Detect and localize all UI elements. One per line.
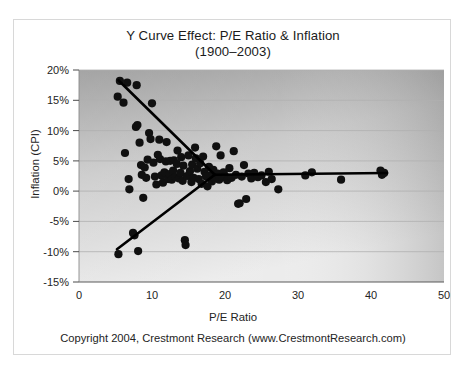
ytick-label: 10% bbox=[47, 125, 69, 137]
scatter-point bbox=[119, 99, 127, 107]
scatter-point bbox=[240, 161, 248, 169]
scatter-point bbox=[155, 136, 163, 144]
ytick-label: 20% bbox=[47, 64, 69, 76]
scatter-point bbox=[125, 175, 133, 183]
ytick-label: 0% bbox=[53, 185, 69, 197]
ytick-label: -10% bbox=[43, 246, 69, 258]
xtick-label: 0 bbox=[76, 289, 82, 301]
scatter-point bbox=[125, 185, 133, 193]
xtick-label: 20 bbox=[219, 289, 231, 301]
xtick-label: 50 bbox=[438, 289, 450, 301]
scatter-point bbox=[337, 176, 345, 184]
scatter-point bbox=[114, 93, 122, 101]
scatter-point bbox=[217, 151, 225, 159]
copyright-note: Copyright 2004, Crestmont Research (www.… bbox=[14, 332, 452, 344]
xtick-label: 30 bbox=[292, 289, 304, 301]
trend-line-horizontal-branch bbox=[215, 173, 387, 175]
scatter-point bbox=[133, 81, 141, 89]
scatter-point bbox=[121, 149, 129, 157]
ytick-label: 15% bbox=[47, 94, 69, 106]
x-axis-tick-labels: 0 10 20 30 40 50 bbox=[76, 289, 450, 301]
scatter-point bbox=[146, 135, 154, 143]
x-axis-title: P/E Ratio bbox=[14, 311, 452, 323]
scatter-point bbox=[148, 99, 156, 107]
xtick-label: 10 bbox=[146, 289, 158, 301]
scatter-point bbox=[134, 247, 142, 255]
scatter-point bbox=[163, 138, 171, 146]
scatter-point bbox=[191, 143, 199, 151]
scatter-point bbox=[181, 241, 189, 249]
y-axis-tick-labels: 20% 15% 10% 5% 0% -5% -10% -15% bbox=[43, 64, 69, 288]
xtick-label: 40 bbox=[365, 289, 377, 301]
scatter-point bbox=[225, 164, 233, 172]
scatter-point bbox=[212, 142, 220, 150]
scatter-point bbox=[141, 163, 149, 171]
scatter-plot: 20% 15% 10% 5% 0% -5% -10% -15% 0 10 20 … bbox=[14, 20, 452, 356]
ytick-label: -15% bbox=[43, 276, 69, 288]
ytick-label: 5% bbox=[53, 155, 69, 167]
scatter-point bbox=[139, 194, 147, 202]
y-axis-ticks bbox=[73, 70, 79, 282]
ytick-label: -5% bbox=[49, 215, 69, 227]
scatter-point bbox=[230, 147, 238, 155]
scatter-point bbox=[268, 175, 276, 183]
scatter-point bbox=[308, 168, 316, 176]
scatter-point bbox=[177, 153, 185, 161]
scatter-point bbox=[114, 250, 122, 258]
scatter-point bbox=[242, 195, 250, 203]
scatter-point bbox=[133, 121, 141, 129]
figure-card: Y Curve Effect: P/E Ratio & Inflation (1… bbox=[13, 19, 451, 355]
scatter-point bbox=[135, 139, 143, 147]
scatter-point bbox=[179, 162, 187, 170]
scatter-point bbox=[274, 185, 282, 193]
scatter-point bbox=[142, 174, 150, 182]
y-axis-title: Inflation (CPI) bbox=[29, 104, 41, 224]
